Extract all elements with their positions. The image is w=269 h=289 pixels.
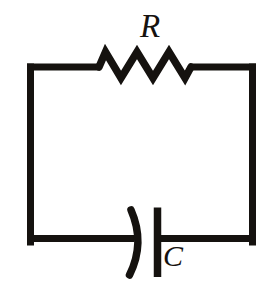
- capacitor-curved-plate-icon: [130, 210, 138, 275]
- resistor-label: R: [140, 10, 160, 43]
- capacitor-label: C: [163, 241, 183, 271]
- circuit-schematic-svg: [0, 0, 269, 289]
- circuit-diagram: R C: [0, 0, 269, 289]
- resistor-zigzag-icon: [99, 52, 191, 78]
